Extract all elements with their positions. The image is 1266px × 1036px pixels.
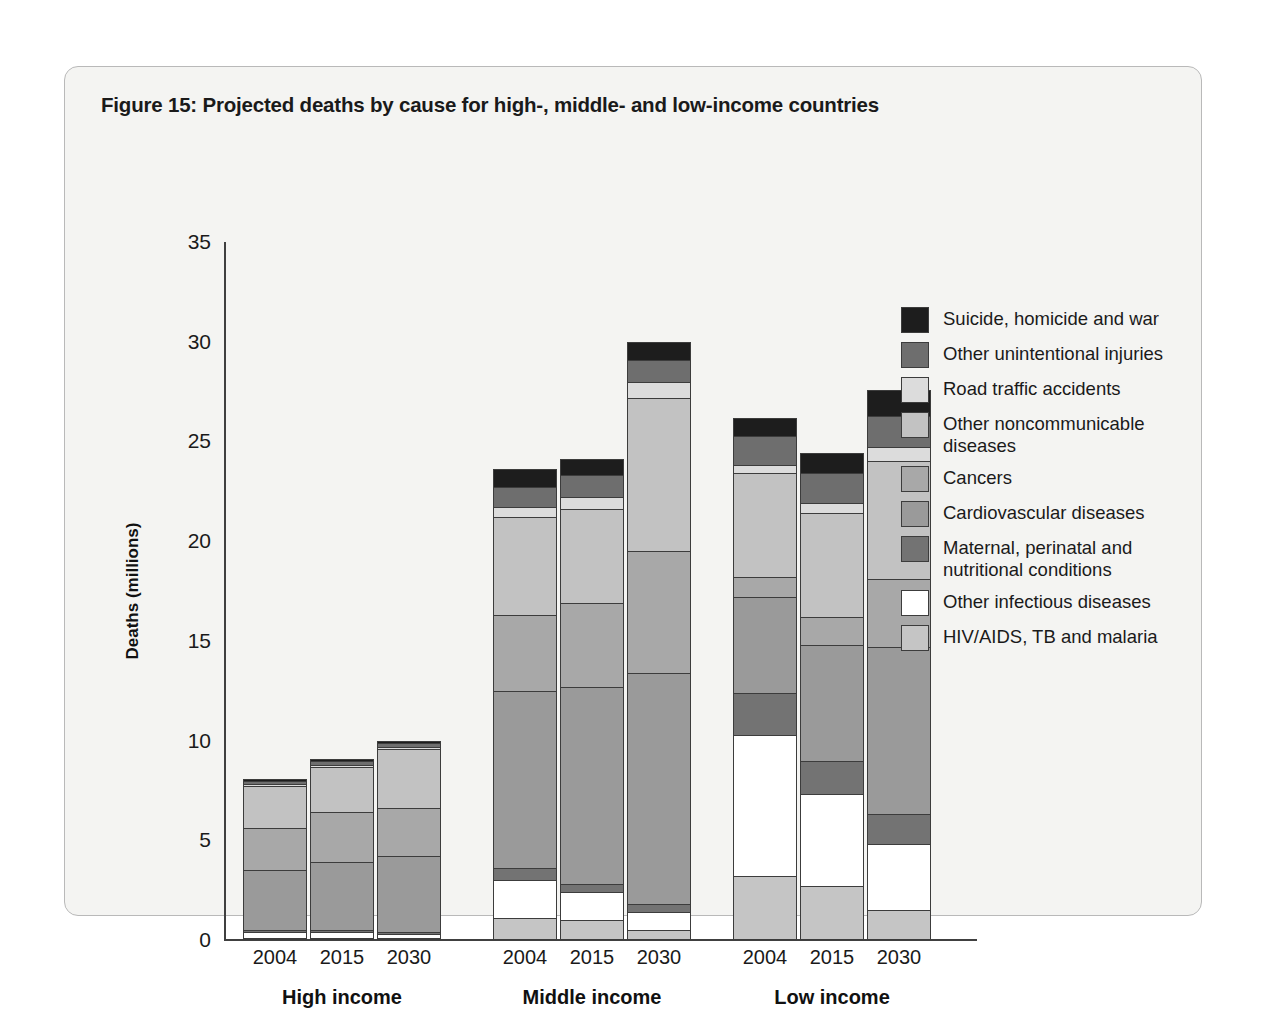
- bar-segment: [733, 693, 797, 735]
- bar-segment: [493, 691, 557, 868]
- legend-label: Other unintentional injuries: [943, 343, 1163, 365]
- bar-segment: [867, 647, 931, 815]
- legend-swatch-icon: [901, 307, 929, 333]
- bar-segment: [627, 360, 691, 382]
- bar-segment: [377, 808, 441, 856]
- y-tick-label: 10: [188, 729, 211, 753]
- legend-item[interactable]: Other noncommunicable diseases: [901, 412, 1201, 457]
- legend-label: Other noncommunicable diseases: [943, 413, 1145, 457]
- legend-label: Other infectious diseases: [943, 591, 1151, 613]
- bar-segment: [733, 473, 797, 577]
- legend-swatch-icon: [901, 590, 929, 616]
- x-tick-label: 2004: [493, 946, 557, 969]
- bar-segment: [867, 814, 931, 844]
- legend-item[interactable]: Other unintentional injuries: [901, 342, 1201, 368]
- legend-label: Suicide, homicide and war: [943, 308, 1159, 330]
- x-tick-label: 2015: [310, 946, 374, 969]
- bar-segment: [627, 930, 691, 940]
- bar-segment: [800, 761, 864, 795]
- legend-item[interactable]: Maternal, perinatal and nutritional cond…: [901, 536, 1201, 581]
- y-axis-title: Deaths (millions): [123, 523, 143, 660]
- legend-item[interactable]: Cancers: [901, 466, 1201, 492]
- plot-area: Deaths (millions) 05101520253035 2004201…: [225, 242, 977, 940]
- bar-segment: [627, 382, 691, 398]
- legend-item[interactable]: Road traffic accidents: [901, 377, 1201, 403]
- bar-segment: [560, 603, 624, 687]
- bar-middle-income-2004[interactable]: [493, 469, 557, 940]
- bar-segment: [310, 862, 374, 930]
- bar-segment: [243, 786, 307, 828]
- y-tick-label: 35: [188, 230, 211, 254]
- bar-high-income-2030[interactable]: [377, 741, 441, 940]
- bar-segment: [800, 617, 864, 645]
- bar-segment: [560, 687, 624, 884]
- bar-segment: [493, 517, 557, 615]
- bar-segment: [560, 892, 624, 920]
- bar-segment: [627, 551, 691, 673]
- legend-item[interactable]: Other infectious diseases: [901, 590, 1201, 616]
- bar-high-income-2004[interactable]: [243, 779, 307, 940]
- legend-swatch-icon: [901, 412, 929, 438]
- legend-swatch-icon: [901, 625, 929, 651]
- x-tick-label: 2004: [243, 946, 307, 969]
- bar-segment: [733, 577, 797, 597]
- bar-segment: [800, 645, 864, 761]
- bar-segment: [560, 509, 624, 603]
- bar-segment: [377, 749, 441, 809]
- bar-segment: [800, 513, 864, 617]
- bar-segment: [627, 342, 691, 360]
- bar-segment: [493, 615, 557, 691]
- bar-segment: [800, 886, 864, 940]
- y-tick-label: 25: [188, 429, 211, 453]
- bar-middle-income-2015[interactable]: [560, 459, 624, 940]
- bar-segment: [800, 453, 864, 473]
- x-tick-label: 2030: [867, 946, 931, 969]
- y-tick-label: 20: [188, 529, 211, 553]
- group-label-low-income: Low income: [733, 986, 931, 1009]
- figure-card: Figure 15: Projected deaths by cause for…: [64, 66, 1202, 916]
- bar-segment: [560, 884, 624, 892]
- x-tick-label: 2015: [800, 946, 864, 969]
- bar-segment: [867, 844, 931, 910]
- bar-segment: [867, 910, 931, 940]
- bar-segment: [733, 418, 797, 436]
- legend-label: Cardiovascular diseases: [943, 502, 1145, 524]
- bar-segment: [627, 904, 691, 912]
- bar-segment: [377, 856, 441, 932]
- legend-item[interactable]: Cardiovascular diseases: [901, 501, 1201, 527]
- legend-label: HIV/AIDS, TB and malaria: [943, 626, 1158, 648]
- bar-middle-income-2030[interactable]: [627, 342, 691, 940]
- bar-segment: [733, 735, 797, 877]
- bar-low-income-2004[interactable]: [733, 418, 797, 940]
- group-label-middle-income: Middle income: [493, 986, 691, 1009]
- x-tick-label: 2030: [627, 946, 691, 969]
- legend-item[interactable]: HIV/AIDS, TB and malaria: [901, 625, 1201, 651]
- legend-swatch-icon: [901, 342, 929, 368]
- legend-label: Road traffic accidents: [943, 378, 1121, 400]
- bar-segment: [243, 870, 307, 930]
- bar-segment: [493, 487, 557, 507]
- bar-segment: [493, 880, 557, 918]
- bar-segment: [560, 497, 624, 509]
- legend-label: Maternal, perinatal and nutritional cond…: [943, 537, 1132, 581]
- bar-segment: [733, 465, 797, 473]
- bar-segment: [733, 597, 797, 693]
- bar-low-income-2015[interactable]: [800, 453, 864, 940]
- bar-segment: [493, 918, 557, 940]
- legend-item[interactable]: Suicide, homicide and war: [901, 307, 1201, 333]
- y-tick-label: 5: [199, 828, 211, 852]
- legend: Suicide, homicide and warOther unintenti…: [901, 307, 1201, 660]
- legend-swatch-icon: [901, 501, 929, 527]
- bar-segment: [377, 938, 441, 940]
- legend-swatch-icon: [901, 377, 929, 403]
- legend-swatch-icon: [901, 466, 929, 492]
- x-tick-label: 2004: [733, 946, 797, 969]
- bar-segment: [560, 459, 624, 475]
- bar-segment: [243, 828, 307, 870]
- bar-high-income-2015[interactable]: [310, 759, 374, 940]
- legend-swatch-icon: [901, 536, 929, 562]
- bar-segment: [310, 767, 374, 813]
- figure-title: Figure 15: Projected deaths by cause for…: [101, 93, 879, 117]
- bar-segment: [310, 938, 374, 940]
- bar-segment: [800, 473, 864, 503]
